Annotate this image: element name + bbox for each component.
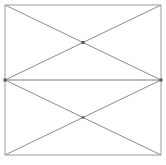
diagram-canvas: [0, 0, 166, 165]
node-lower-cross: [82, 116, 85, 119]
node-mid-left: [4, 79, 7, 82]
crossed-rectangles-diagram: [0, 0, 166, 165]
node-upper-cross: [82, 41, 85, 44]
canvas-background: [0, 0, 166, 165]
node-mid-right: [160, 79, 163, 82]
